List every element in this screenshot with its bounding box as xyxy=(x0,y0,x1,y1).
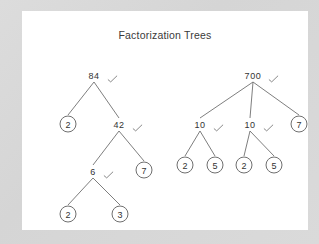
prime-leaf-node: 2 xyxy=(236,157,253,174)
screenshot-root: Factorization Trees 84242672370010107252… xyxy=(0,0,319,244)
composite-node-label: 6 xyxy=(90,167,96,177)
composite-node-label: 84 xyxy=(88,71,99,81)
composite-node-label: 10 xyxy=(244,120,255,130)
prime-leaf-node: 3 xyxy=(112,206,129,223)
prime-leaf-node: 2 xyxy=(177,157,194,174)
prime-leaf-node: 5 xyxy=(207,157,224,174)
tree-edge xyxy=(250,82,253,118)
tree-edge xyxy=(250,131,274,156)
tree-edge xyxy=(244,131,250,156)
node-label: 2 xyxy=(178,158,193,173)
node-label: 2 xyxy=(61,117,76,132)
tree-edge xyxy=(68,82,94,115)
node-label: 3 xyxy=(113,207,128,222)
check-mark-icon xyxy=(263,120,272,129)
tree-edge xyxy=(119,131,144,161)
tree-edge xyxy=(68,178,93,205)
edges-group xyxy=(68,82,299,205)
composite-node-label: 700 xyxy=(245,71,262,81)
prime-leaf-node: 7 xyxy=(136,162,153,179)
node-label: 5 xyxy=(208,158,223,173)
prime-leaf-node: 2 xyxy=(60,206,77,223)
check-mark-icon xyxy=(269,71,278,80)
tree-edge xyxy=(94,82,119,118)
composite-node-label: 10 xyxy=(194,120,205,130)
node-label: 5 xyxy=(267,158,282,173)
node-label: 7 xyxy=(292,117,307,132)
node-label: 2 xyxy=(237,158,252,173)
prime-leaf-node: 7 xyxy=(291,116,308,133)
tree-edge xyxy=(93,178,120,205)
check-mark-icon xyxy=(107,71,116,80)
tree-edge xyxy=(93,131,119,165)
node-label: 7 xyxy=(137,163,152,178)
tree-edge xyxy=(200,82,253,118)
diagram-panel: Factorization Trees 84242672370010107252… xyxy=(22,11,308,230)
prime-leaf-node: 2 xyxy=(60,116,77,133)
check-mark-icon xyxy=(103,167,112,176)
tree-edge xyxy=(253,82,299,115)
composite-node-label: 42 xyxy=(113,120,124,130)
check-mark-icon xyxy=(132,120,141,129)
check-mark-icon xyxy=(213,120,222,129)
prime-leaf-node: 5 xyxy=(266,157,283,174)
node-label: 2 xyxy=(61,207,76,222)
tree-edge xyxy=(200,131,215,156)
tree-edge xyxy=(185,131,200,156)
